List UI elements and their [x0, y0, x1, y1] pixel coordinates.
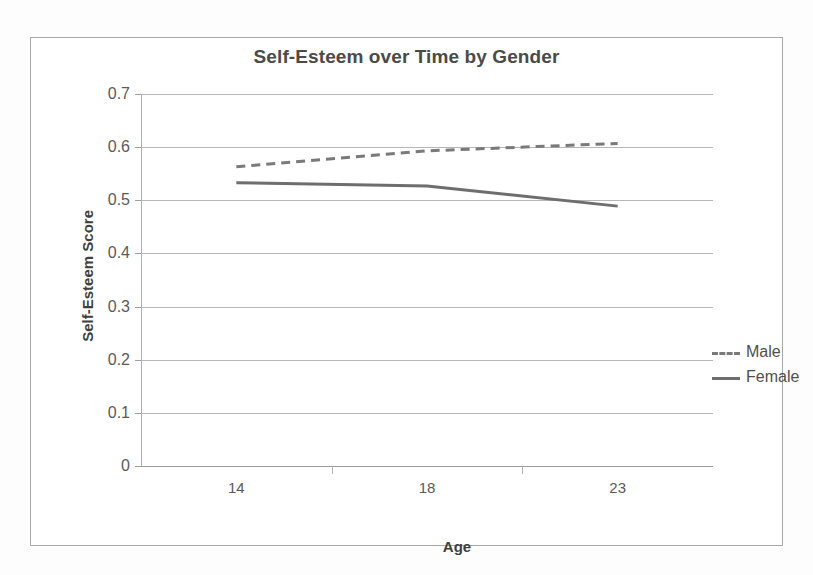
y-axis-tick-label: 0.7	[108, 85, 130, 103]
series-lines	[141, 94, 713, 466]
gridline	[141, 466, 713, 467]
x-axis-separator	[332, 466, 333, 474]
legend-swatch-female-icon	[712, 371, 740, 383]
y-axis-tick-label: 0.6	[108, 138, 130, 156]
plot-area: 0.70.60.50.40.30.20.10 141823 MaleFemale	[141, 94, 713, 466]
x-axis-tick-label: 14	[228, 479, 245, 496]
y-axis-tick-label: 0.2	[108, 351, 130, 369]
y-axis-tick-label: 0.3	[108, 298, 130, 316]
chart-title: Self-Esteem over Time by Gender	[31, 46, 782, 68]
series-line-female	[236, 183, 617, 206]
y-axis-tick-label: 0.5	[108, 191, 130, 209]
y-axis-tick-label: 0	[121, 457, 130, 475]
chart-legend: MaleFemale	[712, 341, 813, 397]
legend-label: Female	[746, 368, 799, 386]
x-axis-title: Age	[171, 538, 743, 555]
legend-swatch-male-icon	[712, 346, 740, 358]
y-axis-title: Self-Esteem Score	[79, 210, 101, 342]
legend-item-female[interactable]: Female	[712, 366, 799, 388]
y-axis-tick-label: 0.4	[108, 244, 130, 262]
legend-item-male[interactable]: Male	[712, 341, 781, 363]
y-axis-tick-label: 0.1	[108, 404, 130, 422]
legend-label: Male	[746, 343, 781, 361]
x-axis-tick-label: 18	[419, 479, 436, 496]
x-axis-separator	[522, 466, 523, 474]
chart-frame: Self-Esteem over Time by Gender Self-Est…	[30, 37, 783, 546]
x-axis-tick-label: 23	[609, 479, 626, 496]
series-line-male	[236, 143, 617, 166]
y-axis-tick	[135, 466, 141, 467]
